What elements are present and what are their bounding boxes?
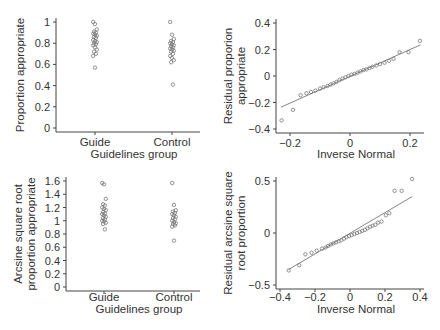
- y-tick-label: 0.2: [35, 101, 50, 113]
- y-tick-label: 1: [44, 16, 50, 28]
- data-point: [393, 189, 396, 192]
- y-axis-label: Arcsine square root: [12, 183, 24, 284]
- data-point: [380, 220, 383, 223]
- y-axis-label: Residual arcsine square: [222, 171, 234, 294]
- x-tick-label: −0.2: [279, 137, 301, 149]
- x-tick-label: 0: [347, 137, 353, 149]
- data-point: [171, 181, 174, 184]
- data-point: [298, 264, 301, 267]
- data-point: [170, 33, 173, 36]
- data-point: [299, 94, 302, 97]
- fit-line: [289, 197, 412, 270]
- x-axis-label: Inverse Normal: [317, 303, 395, 315]
- data-point: [280, 119, 283, 122]
- y-axis-label: Residual proporion: [222, 28, 234, 125]
- category-label: Control: [153, 136, 190, 148]
- y-tick-label: 0: [264, 70, 270, 82]
- data-point: [315, 249, 318, 252]
- data-point: [418, 39, 421, 42]
- data-point: [400, 189, 403, 192]
- y-tick-label: 1.4: [45, 188, 60, 200]
- data-point: [93, 66, 96, 69]
- y-tick-label: 1: [54, 215, 60, 227]
- y-tick-label: 0.2: [45, 268, 60, 280]
- y-tick-label: 0.8: [35, 37, 50, 49]
- x-tick-label: −0.4: [269, 291, 291, 303]
- data-point: [169, 61, 172, 64]
- y-tick-label: 0: [54, 281, 60, 293]
- data-point: [398, 50, 401, 53]
- data-point: [384, 214, 387, 217]
- x-tick-label: 0.2: [402, 137, 417, 149]
- data-point: [407, 50, 410, 53]
- y-tick-label: 0.2: [255, 44, 270, 56]
- y-tick-label: 1.6: [45, 175, 60, 187]
- data-point: [104, 197, 107, 200]
- panel-proportion-strip: 00.20.40.60.81Proportion appropriateGuid…: [14, 16, 200, 160]
- y-tick-label: 0.8: [45, 228, 60, 240]
- category-label: Control: [155, 291, 192, 303]
- data-point: [172, 203, 175, 206]
- data-point: [304, 253, 307, 256]
- figure: 00.20.40.60.81Proportion appropriateGuid…: [0, 0, 440, 330]
- x-axis-label: Guidelines group: [91, 148, 178, 160]
- data-point: [383, 61, 386, 64]
- y-tick-label: −0.4: [248, 123, 270, 135]
- category-label: Guide: [89, 291, 120, 303]
- x-axis-label: Inverse Normal: [317, 148, 395, 160]
- x-axis-label: Guidelines group: [96, 303, 183, 315]
- y-tick-label: 0.6: [35, 58, 50, 70]
- data-point: [310, 251, 313, 254]
- y-tick-label: −0.2: [248, 97, 270, 109]
- panel-arcsine-residual-qq: −0.500.5Residual arcsine squareroot prop…: [222, 171, 428, 315]
- y-axis-label: Proportion appropriate: [14, 18, 26, 132]
- data-point: [376, 221, 379, 224]
- data-point: [387, 59, 390, 62]
- data-point: [309, 90, 312, 93]
- x-tick-label: 0.2: [377, 291, 392, 303]
- data-point: [305, 92, 308, 95]
- x-tick-label: −0.2: [304, 291, 326, 303]
- y-tick-label: 0.6: [45, 241, 60, 253]
- y-tick-label: 0: [264, 227, 270, 239]
- y-tick-label: −0.5: [248, 279, 270, 291]
- y-axis-label: proportion appropriate: [25, 177, 37, 290]
- data-point: [388, 212, 391, 215]
- category-label: Guide: [80, 136, 111, 148]
- data-point: [171, 83, 174, 86]
- panel-residual-qq: −0.4−0.200.20.4Residual proporionappropr…: [222, 17, 425, 160]
- data-point: [169, 20, 172, 23]
- data-point: [410, 177, 413, 180]
- y-axis-label: root proportion: [235, 196, 247, 271]
- y-tick-label: 0.4: [255, 17, 270, 29]
- x-tick-label: 0: [347, 291, 353, 303]
- panel-arcsine-strip: 00.20.40.60.811.21.41.6Arcsine square ro…: [12, 175, 201, 315]
- y-tick-label: 0.4: [45, 255, 60, 267]
- data-point: [392, 57, 395, 60]
- y-tick-label: 0.4: [35, 80, 50, 92]
- y-axis-label: appropriate: [235, 47, 247, 105]
- data-point: [92, 54, 95, 57]
- data-point: [172, 239, 175, 242]
- y-tick-label: 0.5: [255, 175, 270, 187]
- y-tick-label: 1.2: [45, 202, 60, 214]
- x-tick-label: 0.4: [412, 291, 427, 303]
- data-point: [291, 108, 294, 111]
- y-tick-label: 0: [44, 122, 50, 134]
- chart-canvas: 00.20.40.60.81Proportion appropriateGuid…: [0, 0, 440, 330]
- data-point: [103, 228, 106, 231]
